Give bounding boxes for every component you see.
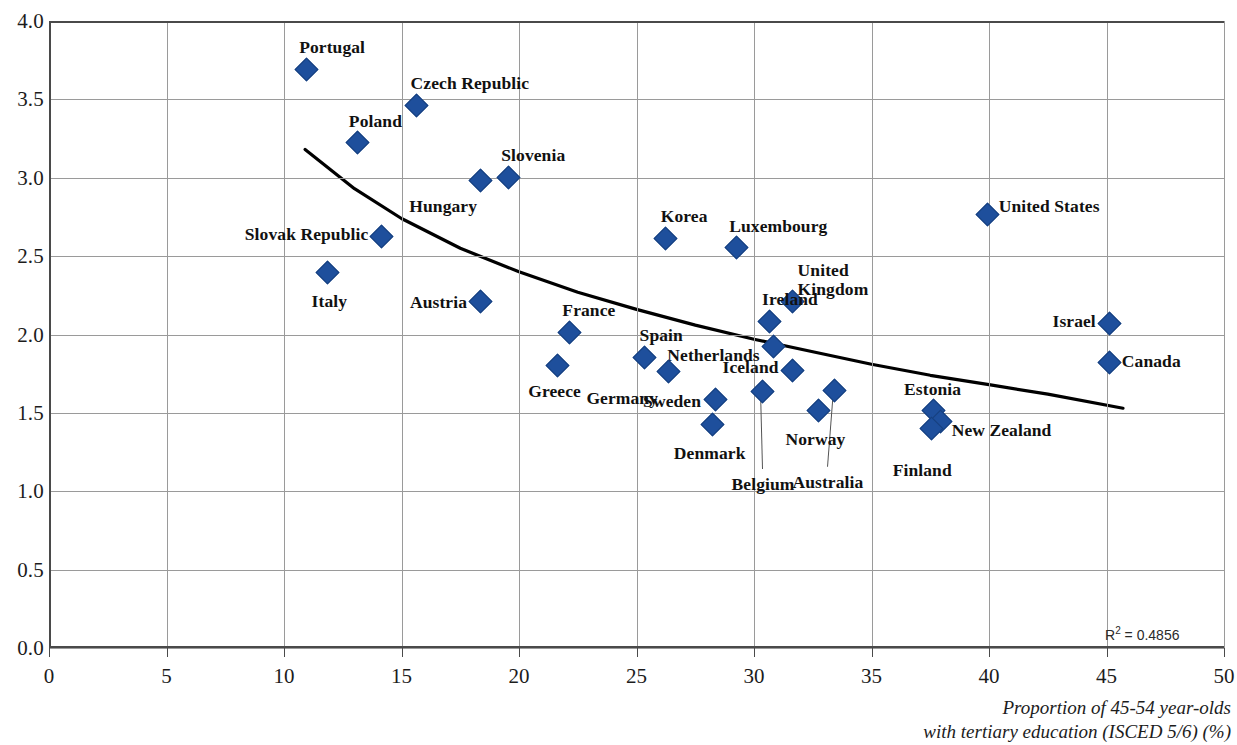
x-axis-tick xyxy=(284,648,285,657)
gridline-vertical xyxy=(754,21,755,648)
x-tick-label: 10 xyxy=(254,664,314,689)
data-point-label: New Zealand xyxy=(952,420,1052,441)
x-tick-label: 30 xyxy=(724,664,784,689)
plot-top-border xyxy=(49,21,1224,23)
data-point-label: Korea xyxy=(661,206,708,227)
data-point-label: Portugal xyxy=(299,37,365,58)
data-point-label: United States xyxy=(999,196,1100,217)
y-axis xyxy=(49,21,51,648)
data-point-label: Canada xyxy=(1122,351,1181,372)
y-tick-label: 3.0 xyxy=(0,165,44,190)
y-tick-label: 1.0 xyxy=(0,479,44,504)
x-axis-tick xyxy=(167,648,168,657)
gridline-vertical xyxy=(1224,21,1225,648)
data-point-label: Iceland xyxy=(722,357,778,378)
x-tick-label: 35 xyxy=(842,664,902,689)
x-axis-tick xyxy=(754,648,755,657)
y-tick-label: 3.5 xyxy=(0,87,44,112)
data-point-label: Greece xyxy=(528,381,581,402)
y-tick-label: 0.5 xyxy=(0,557,44,582)
data-point-label: Italy xyxy=(312,291,348,312)
data-point-label: Luxembourg xyxy=(729,216,827,237)
gridline-vertical xyxy=(1107,21,1108,648)
x-tick-label: 40 xyxy=(959,664,1019,689)
x-tick-label: 45 xyxy=(1077,664,1137,689)
y-tick-label: 2.5 xyxy=(0,244,44,269)
x-tick-label: 50 xyxy=(1194,664,1237,689)
x-axis-tick xyxy=(1107,648,1108,657)
data-point-label: Czech Republic xyxy=(411,73,530,94)
gridline-vertical xyxy=(637,21,638,648)
gridline-vertical xyxy=(519,21,520,648)
x-tick-label: 0 xyxy=(19,664,79,689)
y-tick-label: 2.0 xyxy=(0,322,44,347)
data-point-label: Finland xyxy=(893,460,952,481)
x-axis-tick xyxy=(402,648,403,657)
x-tick-label: 20 xyxy=(489,664,549,689)
data-point-label: France xyxy=(562,300,615,321)
x-tick-label: 5 xyxy=(137,664,197,689)
x-axis-tick xyxy=(519,648,520,657)
r-squared-annotation: R2 = 0.4856 xyxy=(1105,625,1179,643)
x-axis-label-line1: Proportion of 45-54 year-olds xyxy=(631,696,1231,720)
gridline-vertical xyxy=(989,21,990,648)
data-point-label: Estonia xyxy=(904,379,961,400)
data-point-label: Sweden xyxy=(643,391,701,412)
y-tick-label: 0.0 xyxy=(0,636,44,661)
x-axis-tick xyxy=(1224,648,1225,657)
scatter-chart: PortugalCzech RepublicPolandSloveniaHung… xyxy=(0,0,1237,745)
x-tick-label: 25 xyxy=(607,664,667,689)
data-point-label: Israel xyxy=(1052,311,1095,332)
data-point-label: Australia xyxy=(792,472,863,493)
gridline-vertical xyxy=(284,21,285,648)
data-point-label: Norway xyxy=(785,429,845,450)
data-point-label: Poland xyxy=(349,111,402,132)
x-axis-label-line2: with tertiary education (ISCED 5/6) (%) xyxy=(631,720,1231,744)
data-point-label: Slovak Republic xyxy=(245,224,369,245)
plot-area: PortugalCzech RepublicPolandSloveniaHung… xyxy=(49,21,1224,648)
data-point-label: Denmark xyxy=(674,443,746,464)
x-axis-tick xyxy=(872,648,873,657)
y-tick-label: 1.5 xyxy=(0,400,44,425)
data-point-label: Hungary xyxy=(409,196,477,217)
x-axis-tick xyxy=(989,648,990,657)
data-point-label: Slovenia xyxy=(501,145,565,166)
gridline-vertical xyxy=(872,21,873,648)
x-axis-label: Proportion of 45-54 year-olds with terti… xyxy=(631,696,1231,744)
x-axis-tick xyxy=(49,648,50,657)
gridline-vertical xyxy=(167,21,168,648)
data-point-label: Belgium xyxy=(732,474,795,495)
data-point-label: Ireland xyxy=(762,289,818,310)
data-point-label: Spain xyxy=(640,325,683,346)
x-axis xyxy=(49,646,1224,648)
y-tick-label: 4.0 xyxy=(0,9,44,34)
x-tick-label: 15 xyxy=(372,664,432,689)
data-point-label: Austria xyxy=(410,292,467,313)
x-axis-tick xyxy=(637,648,638,657)
